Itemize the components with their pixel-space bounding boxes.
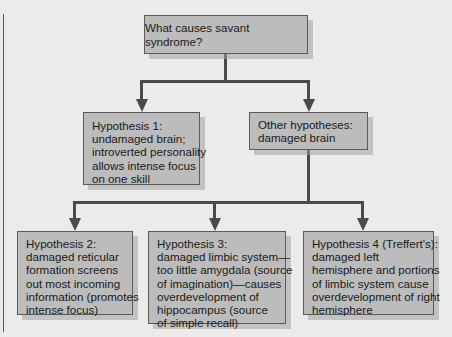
- root-question-label: What causes savant syndrome?: [145, 21, 307, 47]
- hypothesis-1-text: introverted personality: [92, 145, 191, 158]
- arrow-down-icon: [357, 218, 369, 231]
- connector-root-bar: [140, 80, 310, 83]
- connector-to-other-hypotheses: [307, 80, 310, 100]
- connector-to-hypothesis-2: [73, 201, 76, 219]
- hypothesis-3-text: hippocampus (source: [157, 303, 277, 316]
- root-question-box: What causes savant syndrome?: [144, 15, 308, 54]
- hypothesis-3-text: of imagination)—causes: [157, 277, 277, 290]
- hypothesis-2-text: information (promotes: [26, 290, 124, 303]
- arrow-down-icon: [209, 218, 221, 231]
- hypothesis-2-title: Hypothesis 2:: [26, 237, 124, 250]
- connector-other-stem: [307, 149, 310, 203]
- hypothesis-4-text: hemisphere: [312, 303, 425, 316]
- connector-other-bar: [73, 201, 364, 204]
- hypothesis-3-title: Hypothesis 3:: [157, 237, 277, 250]
- arrow-down-icon: [136, 99, 148, 112]
- hypothesis-4-text: overdevelopment of right: [312, 290, 425, 303]
- hypothesis-4-text: of limbic system cause: [312, 277, 425, 290]
- hypothesis-2-box: Hypothesis 2: damaged reticular formatio…: [17, 231, 133, 315]
- hypothesis-2-text: intense focus): [26, 303, 124, 316]
- hypothesis-4-text: hemisphere and portions: [312, 263, 425, 276]
- hypothesis-4-box: Hypothesis 4 (Treffert's): damaged left …: [303, 231, 434, 315]
- other-hypotheses-text: damaged brain: [258, 131, 359, 144]
- other-hypotheses-title: Other hypotheses:: [258, 118, 359, 131]
- hypothesis-3-text: too little amygdala (source: [157, 263, 277, 276]
- hypothesis-2-text: formation screens: [26, 263, 124, 276]
- hypothesis-1-text: allows intense focus: [92, 159, 191, 172]
- arrow-down-icon: [69, 218, 81, 231]
- hypothesis-1-text: on one skill: [92, 172, 191, 185]
- hypothesis-3-text: damaged limbic system—: [157, 250, 277, 263]
- connector-to-hypothesis-4: [361, 201, 364, 219]
- hypothesis-4-title: Hypothesis 4 (Treffert's):: [312, 237, 425, 250]
- hypothesis-2-text: out most incoming: [26, 277, 124, 290]
- hypothesis-3-text: of simple recall): [157, 316, 277, 329]
- hypothesis-4-text: damaged left: [312, 250, 425, 263]
- connector-to-hypothesis-1: [140, 80, 143, 100]
- hypothesis-3-box: Hypothesis 3: damaged limbic system— too…: [148, 231, 286, 324]
- hypothesis-2-text: damaged reticular: [26, 250, 124, 263]
- diagram-canvas: What causes savant syndrome? Hypothesis …: [0, 0, 452, 337]
- hypothesis-1-box: Hypothesis 1: undamaged brain; introvert…: [83, 112, 200, 185]
- arrow-down-icon: [303, 99, 315, 112]
- connector-to-hypothesis-3: [213, 201, 216, 219]
- other-hypotheses-box: Other hypotheses: damaged brain: [249, 112, 368, 150]
- hypothesis-3-text: overdevelopment of: [157, 290, 277, 303]
- page-margin-rule: [3, 14, 4, 332]
- connector-root-stem: [224, 53, 227, 82]
- hypothesis-1-title: Hypothesis 1:: [92, 119, 191, 132]
- hypothesis-1-text: undamaged brain;: [92, 132, 191, 145]
